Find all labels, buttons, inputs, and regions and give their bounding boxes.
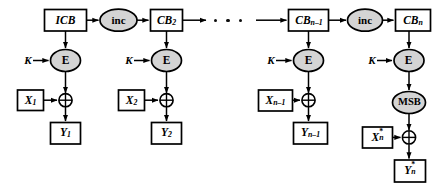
- node-inc-2[interactable]: [347, 9, 383, 32]
- node-cbn[interactable]: [395, 9, 431, 31]
- node-ynstar[interactable]: [394, 160, 426, 183]
- node-xnstar[interactable]: [362, 127, 393, 149]
- node-e-3[interactable]: [293, 49, 324, 72]
- node-icb[interactable]: [44, 9, 87, 31]
- figure-canvas: ICB inc CB2 CBn–1 inc CBn K K K K E E: [0, 0, 437, 192]
- node-y2[interactable]: [151, 122, 182, 144]
- node-e-1[interactable]: [50, 49, 81, 72]
- node-cb2[interactable]: [150, 9, 183, 31]
- node-e-2[interactable]: [151, 49, 182, 72]
- node-yn1[interactable]: [293, 122, 328, 144]
- node-xor-1[interactable]: [58, 93, 73, 108]
- node-x2[interactable]: [118, 90, 145, 111]
- node-x1[interactable]: [17, 90, 44, 111]
- node-msb[interactable]: [392, 91, 426, 114]
- node-xn1[interactable]: [258, 90, 293, 112]
- node-xor-n[interactable]: [402, 130, 417, 145]
- node-e-4[interactable]: [394, 49, 425, 72]
- node-cbn1[interactable]: [288, 9, 329, 31]
- node-xor-2[interactable]: [159, 93, 174, 108]
- node-y1[interactable]: [50, 122, 81, 144]
- node-inc-1[interactable]: [100, 9, 138, 32]
- node-xor-n1[interactable]: [301, 93, 316, 108]
